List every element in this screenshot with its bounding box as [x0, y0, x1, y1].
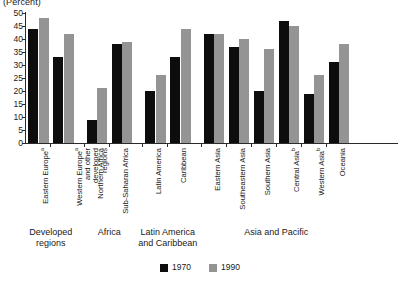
bar-1990	[214, 34, 224, 143]
y-tick-mark	[22, 26, 25, 27]
category-label-line: Oceania	[338, 148, 347, 176]
y-tick-label: 30	[0, 61, 23, 70]
y-tick-mark	[22, 39, 25, 40]
bar-1970	[304, 94, 314, 143]
group-caption-line: and Caribbean	[113, 238, 223, 249]
footnote-marker: b	[290, 148, 296, 151]
y-tick-mark	[22, 117, 25, 118]
y-tick-mark	[22, 65, 25, 66]
category-label-line: Eastern Europe	[41, 151, 50, 204]
category-label: Caribbean	[180, 148, 188, 216]
category-label: Northern Africa	[97, 148, 105, 216]
legend-label: 1990	[221, 263, 240, 272]
y-tick-label: 20	[0, 87, 23, 96]
bar-1970	[254, 91, 264, 143]
y-tick-label: 35	[0, 48, 23, 57]
bar-1990	[289, 26, 299, 143]
y-tick-label: 5	[0, 126, 23, 135]
footnote-marker: b	[315, 148, 321, 151]
legend-item: 1990	[209, 263, 240, 272]
x-axis-line	[25, 143, 398, 144]
bar-1970	[204, 34, 214, 143]
y-tick-label: 15	[0, 100, 23, 109]
category-separator	[50, 143, 51, 147]
group-caption: Asia and Pacific	[221, 227, 331, 238]
y-tick-label: 50	[0, 9, 23, 18]
legend-item: 1970	[160, 263, 191, 272]
category-separator	[142, 143, 143, 147]
bar-1990	[97, 88, 107, 143]
bar-1970	[87, 120, 97, 143]
category-label: Latin America	[155, 148, 163, 216]
y-tick-label: 45	[0, 22, 23, 31]
legend-label: 1970	[172, 263, 191, 272]
group-captions: DevelopedregionsAfricaLatin Americaand C…	[0, 227, 400, 257]
category-label: Oceania	[339, 148, 347, 216]
bar-1990	[122, 42, 132, 143]
y-tick-label: 25	[0, 74, 23, 83]
category-label: Eastern Asia	[214, 148, 222, 216]
bar-1970	[145, 91, 155, 143]
y-tick-label: 40	[0, 35, 23, 44]
bar-1970	[28, 29, 38, 143]
category-separator	[109, 143, 110, 147]
bar-1990	[239, 39, 249, 143]
y-tick-mark	[22, 91, 25, 92]
y-tick-label: 0	[0, 139, 23, 148]
bar-1990	[39, 18, 49, 143]
y-tick-mark	[22, 104, 25, 105]
category-separator	[84, 143, 85, 147]
y-tick-mark	[22, 52, 25, 53]
category-label-line: Sub-Saharan Africa	[121, 148, 130, 214]
category-label-line: Northern Africa	[96, 148, 105, 199]
footnote-marker: a	[39, 148, 45, 151]
bar-1970	[53, 57, 63, 143]
group-caption: Latin Americaand Caribbean	[113, 227, 223, 248]
category-separator	[167, 143, 168, 147]
bars-area	[26, 13, 398, 143]
category-label-line: Central Asia	[291, 151, 300, 192]
category-label: Southern Asia	[264, 148, 272, 216]
category-separator	[201, 143, 202, 147]
group-caption-line: Latin America	[113, 227, 223, 238]
category-label-line: Southeastern Asia	[238, 148, 247, 210]
y-tick-mark	[22, 143, 25, 144]
bar-1990	[181, 29, 191, 143]
category-label: Southeastern Asia	[239, 148, 247, 216]
bar-1990	[264, 49, 274, 143]
group-caption-line: regions	[0, 238, 106, 249]
y-tick-mark	[22, 130, 25, 131]
footnote-marker: a	[73, 148, 79, 151]
category-label-line: Western Asia	[316, 151, 325, 196]
category-label-line: Caribbean	[179, 148, 188, 183]
bar-1990	[156, 75, 166, 143]
category-label-line: Southern Asia	[263, 148, 272, 195]
category-label: Central Asiab	[289, 148, 301, 216]
bar-1990	[64, 34, 74, 143]
bar-1990	[339, 44, 349, 143]
legend-swatch	[160, 264, 168, 272]
bar-1970	[112, 44, 122, 143]
legend-swatch	[209, 264, 217, 272]
category-label: Sub-Saharan Africa	[122, 148, 130, 216]
category-label: Eastern Europea	[38, 148, 50, 216]
bar-1970	[279, 21, 289, 143]
category-separator	[226, 143, 227, 147]
category-separator	[251, 143, 252, 147]
category-label-line: Latin America	[154, 148, 163, 194]
bar-1970	[329, 62, 339, 143]
category-label: Western Asiab	[314, 148, 326, 216]
y-tick-mark	[22, 13, 25, 14]
group-caption-line: Asia and Pacific	[221, 227, 331, 238]
bar-1990	[314, 75, 324, 143]
y-tick-mark	[22, 78, 25, 79]
bar-1970	[170, 57, 180, 143]
bar-1970	[229, 47, 239, 143]
category-separator	[301, 143, 302, 147]
y-tick-label: 10	[0, 113, 23, 122]
axis-title: (Percent)	[3, 0, 41, 7]
category-separator	[276, 143, 277, 147]
legend: 19701990	[0, 263, 400, 272]
bar-chart: (Percent) 50454035302520151050 Eastern E…	[0, 0, 400, 283]
category-labels: Eastern EuropeaWestern Europeaand other …	[26, 148, 398, 218]
